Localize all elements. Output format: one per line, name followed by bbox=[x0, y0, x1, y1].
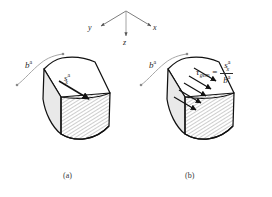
panel-a-dimension-endpoint-right bbox=[62, 53, 65, 56]
formula-numerator-subscript: x bbox=[226, 66, 229, 72]
formula-numerator-superscript: a bbox=[228, 59, 231, 65]
formula-equals: = bbox=[212, 67, 217, 77]
axis-x-arrow bbox=[126, 11, 151, 26]
panel-b-dimension-endpoint-left bbox=[140, 84, 143, 87]
panel-b-formula: τgem = sax ba bbox=[196, 59, 233, 85]
panel-b-dimension-endpoint-right bbox=[186, 53, 189, 56]
panel-a-force-superscript: a bbox=[68, 72, 71, 78]
formula-tau-symbol: τ bbox=[196, 67, 199, 77]
formula-denominator-superscript: a bbox=[228, 74, 231, 80]
panel-a-force-label: sax bbox=[64, 73, 68, 86]
formula-numerator: sax bbox=[222, 59, 231, 73]
panel-a-caption: (a) bbox=[63, 172, 72, 180]
panel-a-dimension-label: ba bbox=[25, 60, 32, 70]
coordinate-axes bbox=[101, 11, 151, 36]
figure-drawing bbox=[0, 0, 272, 197]
panel-b-dimension-label: ba bbox=[149, 60, 156, 70]
formula-lhs: τgem bbox=[196, 67, 209, 77]
figure-container: y x z ba sax ba τgem = sax ba (a) (b) bbox=[0, 0, 272, 197]
formula-denominator: ba bbox=[221, 74, 232, 86]
axis-label-y: y bbox=[88, 24, 92, 32]
axis-label-x: x bbox=[153, 24, 157, 32]
axis-label-z: z bbox=[123, 39, 126, 47]
axis-y-arrow bbox=[101, 11, 126, 26]
panel-a-force-subscript: x bbox=[65, 79, 68, 85]
panel-b-caption: (b) bbox=[185, 172, 194, 180]
formula-fraction: sax ba bbox=[220, 59, 233, 85]
panel-b-dimension-superscript: a bbox=[154, 59, 157, 65]
panel-a-dimension-endpoint-left bbox=[16, 84, 19, 87]
panel-a-dimension-superscript: a bbox=[30, 59, 33, 65]
formula-tau-subscript: gem bbox=[200, 72, 210, 78]
